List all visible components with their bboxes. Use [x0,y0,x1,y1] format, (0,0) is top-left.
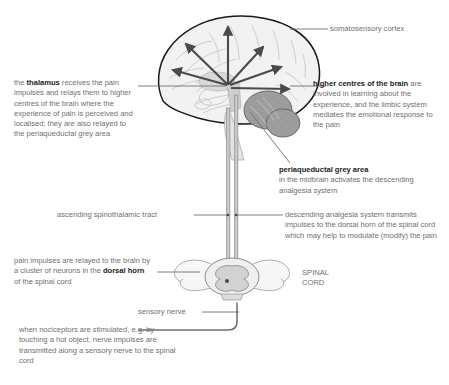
periaqueductal-term: periaqueductal grey area [279,165,368,174]
dorsal-horn-marker [225,279,229,283]
label-sensory-nerve: sensory nerve [138,307,186,317]
higher-centres-term: higher centres of the brain [313,79,408,88]
label-somatosensory-cortex: somatosensory cortex [330,24,404,34]
callout-nociceptors: when nociceptors are stimulated, e.g. by… [19,325,179,366]
brain-sagittal-view [159,16,320,160]
grey-matter-butterfly [216,266,249,292]
dorsal-horn-rest: of the spinal cord [14,277,71,286]
thalamus-rest: receives the pain impulses and relays th… [14,78,133,138]
spinal-cord-cross-section [174,258,289,300]
thalamus-term: thalamus [27,78,60,87]
label-ascending-spinothalamic-tract: ascending spinothalamic tract [57,210,157,220]
descending-analgesia-tract-line [235,95,238,266]
callout-dorsal-horn: pain impulses are relayed to the brain b… [14,256,150,287]
tract-tick-marks [227,214,238,217]
label-spinal-cord: SPINAL CORD [302,268,329,287]
callout-descending-system: descending analgesia system transmits im… [285,210,437,241]
arrow-to-occipital [231,88,289,89]
callout-thalamus: the thalamus receives the pain impulses … [14,78,138,140]
ascending-spinothalamic-tract-line [227,108,230,266]
spinal-cord-line1: SPINAL [302,268,329,278]
pain-pathway-diagram: somatosensory cortex the thalamus receiv… [0,0,449,385]
callout-periaqueductal: periaqueductal grey area in the midbrain… [279,165,437,196]
dorsal-horn-term: dorsal horn [103,266,145,275]
spinal-cord-line2: CORD [302,278,329,288]
periaqueductal-rest: in the midbrain activates the descending… [279,175,414,194]
thalamus-lead: the [14,78,27,87]
callout-higher-centres: higher centres of the brain are involved… [313,79,437,130]
cord-inferior-stub [221,294,243,300]
